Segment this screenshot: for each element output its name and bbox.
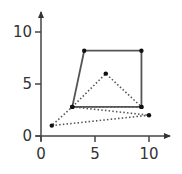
- quadrilateral-shape: [72, 51, 141, 107]
- data-point: [50, 123, 54, 127]
- y-tick-label: 5: [22, 75, 32, 93]
- data-point: [139, 49, 143, 53]
- y-tick-label: 10: [13, 23, 32, 41]
- data-points: [50, 49, 152, 128]
- triangle-outer-shape: [52, 107, 149, 126]
- shapes: [52, 51, 149, 126]
- triangle-shape: [72, 74, 141, 107]
- x-tick-label: 10: [139, 145, 158, 163]
- data-point: [104, 71, 108, 75]
- y-tick-label: 0: [22, 127, 32, 145]
- data-point: [70, 105, 74, 109]
- diagram-plot: 05100510: [0, 0, 182, 174]
- data-point: [147, 113, 151, 117]
- data-point: [139, 105, 143, 109]
- x-tick-label: 5: [90, 145, 100, 163]
- data-point: [82, 49, 86, 53]
- x-tick-label: 0: [36, 145, 46, 163]
